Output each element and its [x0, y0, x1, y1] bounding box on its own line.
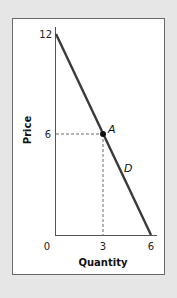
x-axis-title: Quantity: [79, 257, 128, 268]
curve-d-label: D: [124, 162, 132, 175]
x-tick-3: 3: [100, 241, 106, 252]
point-a-marker: [100, 131, 106, 137]
point-a-label: A: [107, 123, 116, 136]
x-tick-0: 0: [44, 241, 50, 252]
demand-chart: 12 6 0 3 6 Quantity Price A D: [0, 0, 177, 298]
y-tick-12: 12: [39, 29, 52, 40]
y-tick-6: 6: [45, 129, 51, 140]
y-axis-title: Price: [22, 116, 33, 145]
x-tick-6: 6: [148, 241, 154, 252]
